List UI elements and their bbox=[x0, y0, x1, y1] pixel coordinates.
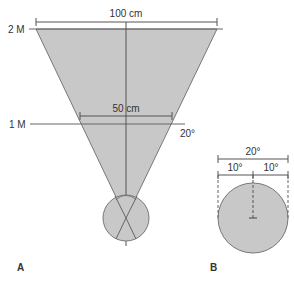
label-10deg-left: 10° bbox=[227, 162, 242, 173]
label-20deg: 20° bbox=[245, 146, 260, 157]
panel-b: 20° 10° 10° B bbox=[210, 146, 288, 273]
label-2m: 2 M bbox=[8, 24, 25, 35]
label-10deg-right: 10° bbox=[263, 162, 278, 173]
label-100cm: 100 cm bbox=[110, 8, 143, 19]
label-angle-20: 20° bbox=[180, 128, 195, 139]
label-1m: 1 M bbox=[9, 119, 26, 130]
panel-a: 2 M 1 M 100 cm 50 cm 20° A bbox=[8, 8, 223, 273]
label-50cm: 50 cm bbox=[112, 103, 139, 114]
panel-b-label: B bbox=[210, 262, 217, 273]
visual-field-diagram: 2 M 1 M 100 cm 50 cm 20° A 20° 10° 10° B bbox=[0, 0, 294, 281]
eye bbox=[103, 195, 149, 241]
panel-a-label: A bbox=[17, 262, 24, 273]
